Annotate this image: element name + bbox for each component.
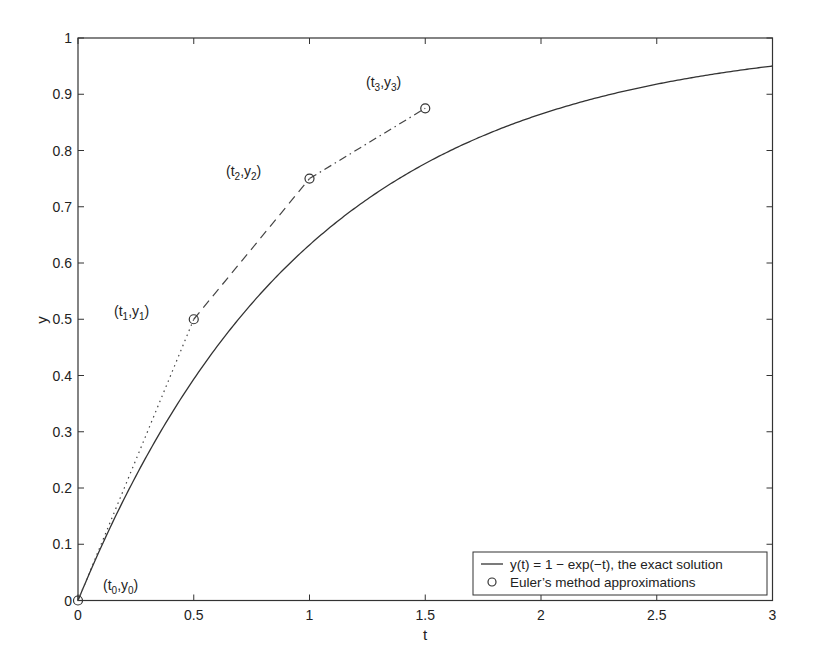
y-tick-label: 0.3 xyxy=(53,424,73,440)
x-tick-label: 0 xyxy=(74,607,82,623)
y-tick-label: 0.9 xyxy=(53,86,73,102)
y-tick-label: 0.6 xyxy=(53,255,73,271)
x-tick-label: 1.5 xyxy=(416,607,436,623)
legend-label-euler: Euler’s method approximations xyxy=(510,575,696,590)
y-tick-label: 0.5 xyxy=(53,311,73,327)
chart: 00.511.522.53 00.10.20.30.40.50.60.70.80… xyxy=(0,0,817,670)
y-tick-label: 0.7 xyxy=(53,199,73,215)
x-tick-label: 3 xyxy=(769,607,777,623)
x-tick-label: 0.5 xyxy=(184,607,204,623)
y-tick-label: 0 xyxy=(64,593,72,609)
y-tick-label: 0.8 xyxy=(53,143,73,159)
x-tick-label: 1 xyxy=(306,607,314,623)
y-tick-label: 0.2 xyxy=(53,480,73,496)
y-axis-label: y xyxy=(33,316,50,324)
x-tick-label: 2 xyxy=(537,607,545,623)
x-tick-label: 2.5 xyxy=(647,607,667,623)
legend: y(t) = 1 − exp(−t), the exact solution E… xyxy=(473,552,767,595)
y-tick-label: 1 xyxy=(64,30,72,46)
x-axis-label: t xyxy=(423,626,428,643)
y-tick-label: 0.1 xyxy=(53,536,73,552)
y-tick-label: 0.4 xyxy=(53,368,73,384)
plot-area xyxy=(78,38,773,601)
legend-label-exact: y(t) = 1 − exp(−t), the exact solution xyxy=(510,557,723,572)
